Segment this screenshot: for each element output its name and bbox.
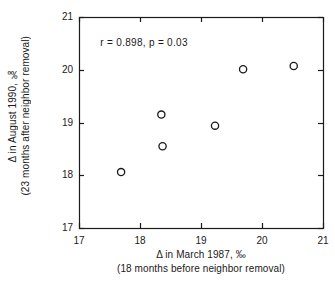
data-point: [290, 62, 297, 69]
data-point: [159, 143, 166, 150]
y-axis-label-line2: (23 months after neighbor removal): [21, 36, 31, 196]
data-point: [211, 122, 218, 129]
data-point: [158, 111, 165, 118]
x-axis-label-line2: (18 months before neighbor removal): [79, 262, 323, 276]
y-axis-tick-label: 20: [57, 65, 73, 75]
x-axis-tick-label: 18: [134, 236, 145, 246]
x-axis-label: Δ in March 1987, ‰ (18 months before nei…: [79, 248, 323, 276]
y-axis-tick-label: 17: [57, 223, 73, 233]
x-axis-tick-label: 21: [317, 236, 328, 246]
y-axis-tick-label: 18: [57, 170, 73, 180]
correlation-annotation: r = 0.898, p = 0.03: [100, 37, 187, 49]
y-axis-tick-label: 19: [57, 118, 73, 128]
x-axis-tick-label: 19: [195, 236, 206, 246]
x-axis-label-line1: Δ in March 1987, ‰: [79, 248, 323, 262]
x-axis-tick-label: 17: [73, 236, 84, 246]
data-point: [117, 168, 124, 175]
y-axis-tick-label: 21: [57, 12, 73, 22]
y-axis-label-line1: Δ in August 1990, ‰: [8, 69, 18, 163]
x-axis-tick-label: 20: [256, 236, 267, 246]
data-point: [239, 66, 246, 73]
plot-frame: [80, 18, 324, 229]
scatter-plot-figure: Δ in August 1990, ‰ (23 months after nei…: [0, 0, 335, 288]
